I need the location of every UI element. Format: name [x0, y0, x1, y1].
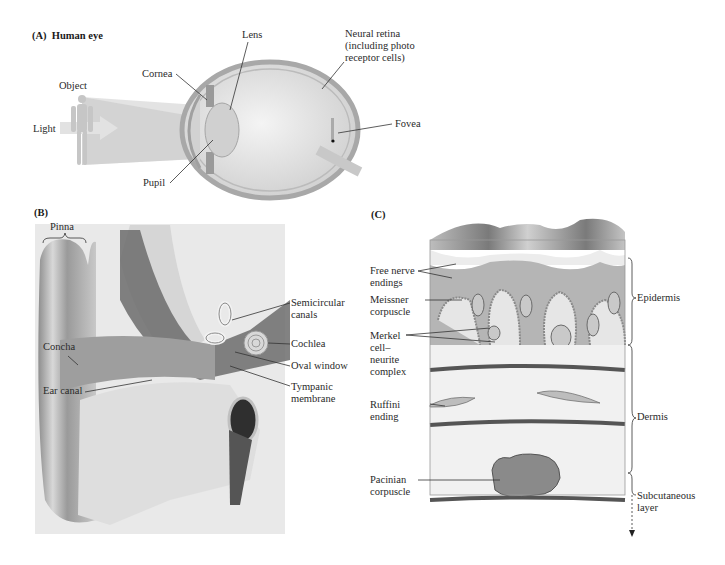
skin-illustration — [406, 219, 636, 537]
label-dermis: Dermis — [637, 411, 668, 423]
label-lens: Lens — [242, 29, 262, 41]
label-merkel-complex: Merkel cell– neurite complex — [370, 330, 406, 378]
label-subcutaneous-layer: Subcutaneous layer — [637, 490, 695, 514]
label-cornea: Cornea — [142, 68, 172, 80]
label-light: Light — [33, 123, 56, 135]
label-pinna: Pinna — [50, 221, 74, 233]
panel-b-label: (B) — [34, 207, 48, 218]
label-ruffini-ending: Ruffini ending — [370, 399, 400, 423]
label-oval-window: Oval window — [291, 360, 348, 372]
label-cochlea: Cochlea — [291, 338, 325, 350]
figure-artwork — [0, 0, 725, 565]
ear-illustration — [35, 224, 290, 534]
label-pupil: Pupil — [143, 177, 165, 189]
label-semicircular-canals: Semicircular canals — [291, 297, 345, 321]
label-epidermis: Epidermis — [637, 292, 680, 304]
label-object: Object — [59, 80, 87, 92]
label-neural-retina: Neural retina (including photo receptor … — [345, 28, 415, 64]
label-tympanic-membrane: Tympanic membrane — [291, 381, 335, 405]
panel-a-label: (A) Human eye — [32, 30, 103, 41]
eye-illustration — [60, 42, 392, 198]
label-fovea: Fovea — [395, 118, 421, 130]
label-ear-canal: Ear canal — [43, 385, 82, 397]
label-meissner-corpuscle: Meissner corpuscle — [370, 294, 410, 318]
panel-c-label: (C) — [371, 209, 386, 220]
label-concha: Concha — [43, 341, 75, 353]
label-pacinian-corpuscle: Pacinian corpuscle — [370, 474, 410, 498]
label-free-nerve-endings: Free nerve endings — [370, 265, 415, 289]
